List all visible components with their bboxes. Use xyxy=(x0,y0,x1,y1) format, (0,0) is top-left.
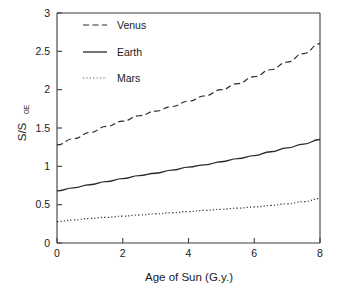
y-tick-label: 1 xyxy=(44,160,50,172)
y-tick-label: 2.5 xyxy=(35,45,50,57)
y-tick-label: 3 xyxy=(44,7,50,19)
x-axis-title: Age of Sun (G.y.) xyxy=(145,271,233,283)
y-axis-title-subscript: 0E xyxy=(22,105,31,114)
y-tick-label: 0.5 xyxy=(35,198,50,210)
line-chart-canvas: 00.511.522.53 02468 VenusEarthMars S/S 0… xyxy=(0,0,340,297)
y-tick-label: 2 xyxy=(44,83,50,95)
series-line-mars xyxy=(57,199,320,222)
x-tick-label: 6 xyxy=(251,247,257,259)
legend-label-venus: Venus xyxy=(117,19,146,31)
series-line-venus xyxy=(57,44,320,145)
x-tick-label: 2 xyxy=(120,247,126,259)
axes-frame xyxy=(57,13,320,243)
y-axis-title-main: S/S xyxy=(16,122,28,141)
x-tick-label: 4 xyxy=(186,247,192,259)
y-axis-title: S/S 0E xyxy=(16,105,31,141)
chart-figure: 00.511.522.53 02468 VenusEarthMars S/S 0… xyxy=(0,0,340,297)
x-tick-label: 0 xyxy=(54,247,60,259)
x-axis-ticks: 02468 xyxy=(54,238,323,259)
y-tick-label: 1.5 xyxy=(35,122,50,134)
x-tick-label: 8 xyxy=(317,247,323,259)
chart-legend: VenusEarthMars xyxy=(83,19,146,84)
legend-label-mars: Mars xyxy=(117,72,140,84)
y-axis-ticks: 00.511.522.53 xyxy=(35,7,62,249)
legend-label-earth: Earth xyxy=(117,46,142,58)
data-series-group xyxy=(57,44,320,222)
y-tick-label: 0 xyxy=(44,237,50,249)
series-line-earth xyxy=(57,140,320,191)
